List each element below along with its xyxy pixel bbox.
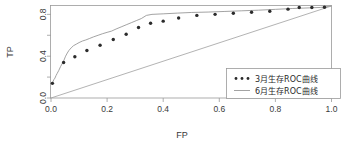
roc-data-point (149, 22, 152, 25)
roc-data-point (310, 6, 313, 9)
roc-data-point (298, 6, 301, 9)
legend-dot-icon (235, 77, 238, 80)
legend: 3月生存ROC曲线 6月生存ROC曲线 (227, 69, 341, 99)
x-tick-label: 0.6 (213, 104, 225, 114)
legend-dot-icon (241, 77, 244, 80)
y-tick-label: 0.0 (38, 92, 48, 104)
x-tick-label: 0.0 (45, 104, 57, 114)
roc-data-point (323, 6, 326, 9)
legend-label-3month: 3月生存ROC曲线 (255, 74, 318, 84)
roc-data-point (124, 33, 127, 36)
x-tick-label: 0.2 (101, 104, 113, 114)
legend-dot-icon (247, 77, 250, 80)
roc-data-point (213, 13, 216, 16)
roc-data-point (85, 49, 88, 52)
roc-data-point (286, 7, 289, 10)
y-tick-label: 0.4 (38, 50, 48, 62)
roc-data-point (62, 61, 65, 64)
roc-data-point (137, 26, 140, 29)
roc-data-point (250, 11, 253, 14)
roc-data-point (195, 14, 198, 17)
x-tick-label: 1.0 (326, 104, 338, 114)
roc-data-point (268, 10, 271, 13)
roc-data-point (51, 82, 54, 85)
legend-label-6month: 6月生存ROC曲线 (255, 86, 318, 96)
roc-data-point (73, 55, 76, 58)
roc-plot-svg: 0.00.20.40.60.81.0 0.00.40.8 FP TP 3月生存R… (0, 0, 352, 144)
x-axis-title: FP (176, 130, 188, 140)
roc-data-point (162, 19, 165, 22)
x-tick-label: 0.4 (157, 104, 169, 114)
roc-data-point (177, 16, 180, 19)
roc-data-point (232, 12, 235, 15)
x-tick-label: 0.8 (269, 104, 281, 114)
roc-data-point (98, 44, 101, 47)
y-tick-label: 0.8 (38, 8, 48, 20)
y-axis-title: TP (5, 46, 15, 58)
roc-chart-figure: 0.00.20.40.60.81.0 0.00.40.8 FP TP 3月生存R… (0, 0, 352, 144)
roc-data-point (112, 38, 115, 41)
